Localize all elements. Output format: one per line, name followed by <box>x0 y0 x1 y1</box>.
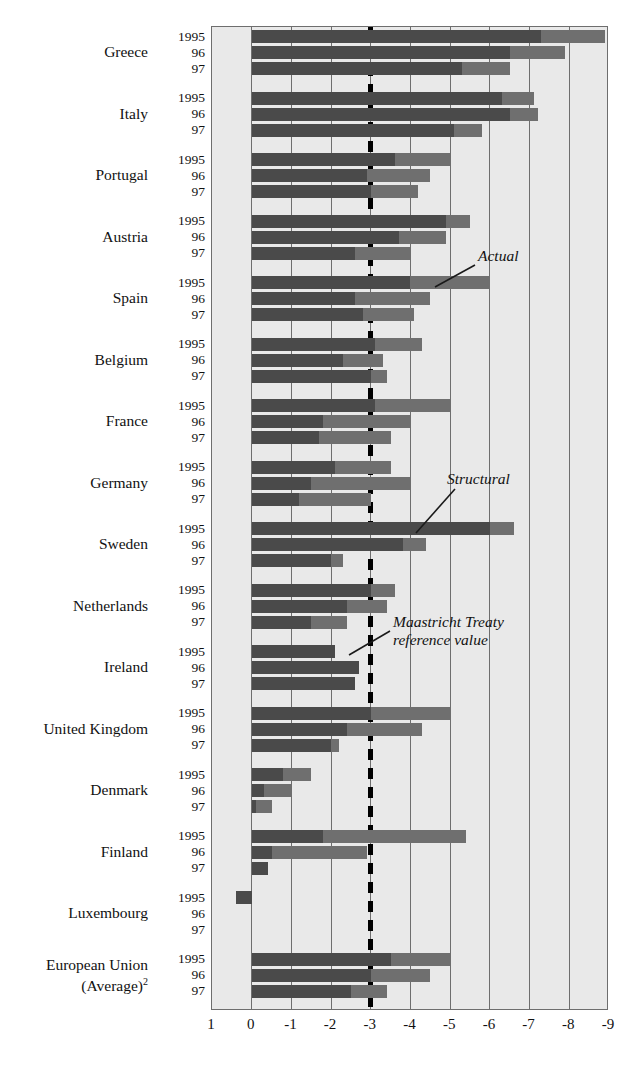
year-label-97: 97 <box>153 308 205 323</box>
bar-structural-portugal-97 <box>252 185 371 198</box>
year-label-97: 97 <box>153 677 205 692</box>
year-label-97: 97 <box>153 246 205 261</box>
country-label: Luxembourg <box>0 904 148 921</box>
gridline--5 <box>450 27 451 1009</box>
year-label-96: 96 <box>153 722 205 737</box>
bar-structural-belgium-1995 <box>252 338 375 351</box>
year-label-1995: 1995 <box>153 91 205 106</box>
annotation-maastricht-line2: reference value <box>393 631 488 649</box>
year-label-1995: 1995 <box>153 153 205 168</box>
year-label-97: 97 <box>153 800 205 815</box>
x-tick-neg1: -1 <box>284 1016 297 1033</box>
bar-structural-denmark-1995 <box>252 768 284 781</box>
year-label-97: 97 <box>153 492 205 507</box>
year-label-1995: 1995 <box>153 276 205 291</box>
bar-structural-france-1995 <box>252 399 375 412</box>
bar-structural-finland-96 <box>252 846 272 859</box>
bar-structural-luxembourg-1995 <box>236 891 252 904</box>
year-label-96: 96 <box>153 968 205 983</box>
year-label-97: 97 <box>153 554 205 569</box>
year-label-1995: 1995 <box>153 30 205 45</box>
gridline--7 <box>529 27 530 1009</box>
x-tick-1: 1 <box>207 1016 215 1033</box>
year-label-1995: 1995 <box>153 645 205 660</box>
annotation-actual: Actual <box>478 247 518 265</box>
year-label-1995: 1995 <box>153 952 205 967</box>
y-group-netherlands: Netherlands19959697 <box>0 583 209 631</box>
bar-structural-greece-1995 <box>252 30 542 43</box>
bar-structural-united-kingdom-96 <box>252 723 347 736</box>
bar-structural-italy-97 <box>252 124 454 137</box>
bar-structural-greece-97 <box>252 62 462 75</box>
country-label: Ireland <box>0 658 148 675</box>
bar-structural-ireland-96 <box>252 661 359 674</box>
x-tick-neg7: -7 <box>522 1016 535 1033</box>
y-group-belgium: Belgium19959697 <box>0 337 209 385</box>
bar-structural-ireland-97 <box>252 677 355 690</box>
year-label-1995: 1995 <box>153 399 205 414</box>
year-label-1995: 1995 <box>153 829 205 844</box>
country-label: Austria <box>0 228 148 245</box>
y-group-italy: Italy19959697 <box>0 91 209 139</box>
country-label: France <box>0 412 148 429</box>
year-label-97: 97 <box>153 738 205 753</box>
x-tick-neg5: -5 <box>443 1016 456 1033</box>
country-label: Greece <box>0 43 148 60</box>
bar-structural-spain-1995 <box>252 276 411 289</box>
bar-structural-ireland-1995 <box>252 645 335 658</box>
y-group-spain: Spain19959697 <box>0 275 209 323</box>
year-label-96: 96 <box>153 46 205 61</box>
year-label-96: 96 <box>153 784 205 799</box>
y-group-luxembourg: Luxembourg19959697 <box>0 890 209 938</box>
bar-structural-germany-1995 <box>252 461 335 474</box>
year-label-96: 96 <box>153 169 205 184</box>
bar-structural-portugal-96 <box>252 169 367 182</box>
year-label-1995: 1995 <box>153 522 205 537</box>
bar-structural-italy-1995 <box>252 92 502 105</box>
y-group-germany: Germany19959697 <box>0 460 209 508</box>
bar-structural-finland-97 <box>252 862 268 875</box>
year-label-97: 97 <box>153 369 205 384</box>
y-group-sweden: Sweden19959697 <box>0 521 209 569</box>
bar-structural-netherlands-97 <box>252 616 312 629</box>
year-label-97: 97 <box>153 123 205 138</box>
country-label: Germany <box>0 474 148 491</box>
bar-structural-greece-96 <box>252 46 510 59</box>
bar-structural-austria-1995 <box>252 215 447 228</box>
bar-structural-germany-96 <box>252 477 312 490</box>
x-tick-neg8: -8 <box>562 1016 575 1033</box>
bar-structural-austria-96 <box>252 231 399 244</box>
year-label-97: 97 <box>153 62 205 77</box>
year-label-97: 97 <box>153 923 205 938</box>
country-label: Belgium <box>0 351 148 368</box>
x-tick-0: 0 <box>247 1016 255 1033</box>
year-label-97: 97 <box>153 615 205 630</box>
plot-area <box>211 26 608 1010</box>
y-group-finland: Finland19959697 <box>0 829 209 877</box>
country-label: Denmark <box>0 781 148 798</box>
country-label: Portugal <box>0 166 148 183</box>
year-label-97: 97 <box>153 861 205 876</box>
country-label: Finland <box>0 843 148 860</box>
y-group-austria: Austria19959697 <box>0 214 209 262</box>
year-label-96: 96 <box>153 107 205 122</box>
x-tick-neg4: -4 <box>403 1016 416 1033</box>
y-group-denmark: Denmark19959697 <box>0 767 209 815</box>
annotation-maastricht-line1: Maastricht Treaty <box>393 613 504 631</box>
y-axis-labels: Greece19959697Italy19959697Portugal19959… <box>0 26 209 1010</box>
y-group-portugal: Portugal19959697 <box>0 152 209 200</box>
bar-structural-denmark-97 <box>252 800 256 813</box>
y-group-united-kingdom: United Kingdom19959697 <box>0 706 209 754</box>
y-group-ireland: Ireland19959697 <box>0 644 209 692</box>
gridline--8 <box>569 27 570 1009</box>
bar-structural-belgium-97 <box>252 370 371 383</box>
country-label: United Kingdom <box>0 720 148 737</box>
year-label-96: 96 <box>153 599 205 614</box>
year-label-1995: 1995 <box>153 337 205 352</box>
year-label-1995: 1995 <box>153 583 205 598</box>
bar-structural-sweden-97 <box>252 554 331 567</box>
x-tick-neg6: -6 <box>483 1016 496 1033</box>
bar-structural-france-96 <box>252 415 323 428</box>
bar-structural-united-kingdom-97 <box>252 739 331 752</box>
bar-structural-spain-97 <box>252 308 363 321</box>
